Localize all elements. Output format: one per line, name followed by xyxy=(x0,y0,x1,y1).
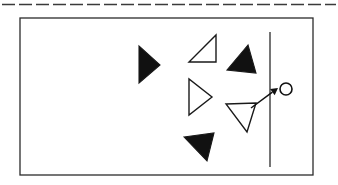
diagram-canvas xyxy=(0,0,338,185)
target-circle xyxy=(280,83,292,95)
figure-root xyxy=(0,0,338,185)
